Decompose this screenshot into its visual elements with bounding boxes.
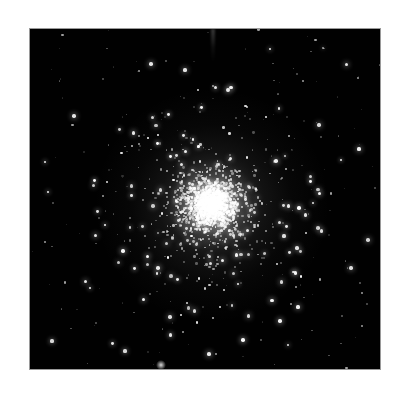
star-point [178,209,180,211]
star-point [231,206,234,209]
star-point [220,222,222,224]
star-point [213,200,216,203]
star-point [215,212,218,215]
star-point [229,224,231,226]
star-point [187,202,190,205]
star-point [218,203,221,206]
star-point [201,207,204,210]
star-point [209,210,211,212]
star-point [59,48,60,49]
star-point [309,180,312,183]
star-point [208,198,210,200]
star-point [199,184,201,186]
star-point [198,193,200,195]
star-point [180,163,183,166]
star-point [216,196,219,199]
star-point [220,182,222,184]
star-point [188,274,190,276]
star-point [210,210,213,213]
star-point [220,201,222,203]
star-point [213,197,216,200]
star-point [215,205,217,207]
star-point [183,185,185,187]
star-point [122,177,123,178]
star-point [185,199,188,202]
star-point [193,187,196,190]
star-point [210,202,212,204]
star-point [366,303,368,305]
star-point [183,174,185,176]
star-point [292,169,294,171]
star-point [238,175,241,178]
star-point [201,221,204,224]
star-point [205,208,207,210]
star-point [204,200,207,203]
star-point [254,169,257,172]
star-point [155,240,156,241]
star-point [204,247,206,249]
star-point [272,63,274,65]
star-point [203,222,205,224]
star-point [212,217,215,220]
star-point [191,231,193,233]
star-point [225,204,228,207]
star-point [229,197,231,199]
star-point [218,163,221,166]
star-point [197,194,200,197]
star-point [232,210,234,212]
star-point [215,218,217,220]
star-point [169,333,172,336]
star-point [225,176,227,178]
star-point [238,125,240,127]
star-point [228,180,230,182]
star-point [207,199,209,201]
star-point [238,188,241,191]
star-point [214,199,216,201]
star-point [224,202,226,204]
star-point [158,193,160,195]
star-point [210,203,213,206]
star-point [216,194,218,196]
star-point [238,249,240,251]
star-point [303,297,304,298]
star-point [214,181,216,183]
star-point [207,202,210,205]
star-point [217,256,219,258]
star-point [217,200,219,202]
star-point [225,217,227,219]
star-point [205,186,207,188]
star-point [164,116,166,118]
star-point [182,176,184,178]
star-point [221,230,223,232]
star-point [174,214,177,217]
star-point [202,186,205,189]
star-point [203,191,206,194]
star-point [210,213,213,216]
star-point [151,223,152,224]
star-point [294,138,296,140]
star-point [165,60,167,62]
star-point [148,247,150,249]
star-point [188,212,191,215]
star-point [198,224,200,226]
star-point [220,213,223,216]
star-point [186,239,189,242]
star-point [215,193,217,195]
star-point [189,196,191,198]
star-point [102,195,104,197]
star-point [209,203,212,206]
star-point [259,200,262,203]
star-point [244,193,246,195]
star-point [211,197,214,200]
star-point [217,205,219,207]
star-point [201,200,204,203]
star-point [221,216,224,219]
star-point [219,219,221,221]
star-point [192,212,194,214]
star-point [210,205,212,207]
star-point [222,218,224,220]
star-point [244,198,246,200]
star-point [217,203,219,205]
star-point [213,206,215,208]
star-point [200,194,202,196]
